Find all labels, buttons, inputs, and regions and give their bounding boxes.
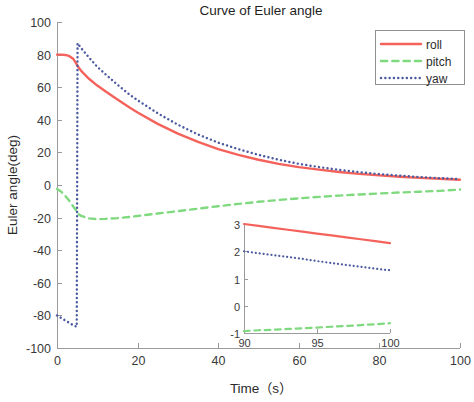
x-tick-label: 80 <box>373 354 387 368</box>
y-tick-label: 1 <box>234 274 240 286</box>
y-tick-label: -100 <box>26 342 51 356</box>
y-tick-label: 0 <box>234 301 240 313</box>
inset-y-axis-ticks: -10123 <box>230 219 248 340</box>
y-tick-label: 40 <box>37 114 51 128</box>
y-tick-label: 20 <box>37 146 51 160</box>
series-line-yaw <box>244 251 390 270</box>
x-tick-label: 90 <box>238 337 250 349</box>
main-series-group <box>57 43 460 327</box>
chart-canvas: Curve of Euler angle -100-80-60-40-20020… <box>0 0 474 402</box>
y-tick-label: -20 <box>33 212 51 226</box>
legend-label-yaw: yaw <box>426 72 448 86</box>
inset-x-axis-ticks: 9095100 <box>238 329 399 349</box>
series-line-pitch <box>57 189 460 219</box>
legend-label-pitch: pitch <box>426 55 451 69</box>
y-tick-label: 60 <box>37 81 51 95</box>
legend-label-roll: roll <box>426 38 442 52</box>
y-tick-label: 0 <box>44 179 51 193</box>
x-axis-title: Time（s） <box>230 381 292 396</box>
y-tick-label: -80 <box>33 309 51 323</box>
series-line-yaw <box>57 43 460 327</box>
chart-title: Curve of Euler angle <box>199 3 322 18</box>
y-tick-label: -40 <box>33 244 51 258</box>
series-line-roll <box>244 224 390 243</box>
y-tick-label: 80 <box>37 49 51 63</box>
x-tick-label: 0 <box>54 354 61 368</box>
y-axis-title: Euler angle(deg) <box>5 135 20 235</box>
x-tick-label: 60 <box>293 354 307 368</box>
x-tick-label: 95 <box>311 337 323 349</box>
y-tick-label: 2 <box>234 246 240 258</box>
x-axis-ticks: 020406080100 <box>54 343 471 368</box>
inset-series-group <box>244 224 390 331</box>
euler-angle-figure: Curve of Euler angle -100-80-60-40-20020… <box>0 0 474 402</box>
y-tick-label: -60 <box>33 277 51 291</box>
y-tick-label: 100 <box>30 16 51 30</box>
x-tick-label: 40 <box>212 354 226 368</box>
legend: rollpitchyaw <box>376 31 465 86</box>
y-tick-label: 3 <box>234 219 240 231</box>
x-tick-label: 100 <box>450 354 471 368</box>
x-tick-label: 100 <box>381 337 399 349</box>
x-tick-label: 20 <box>132 354 146 368</box>
